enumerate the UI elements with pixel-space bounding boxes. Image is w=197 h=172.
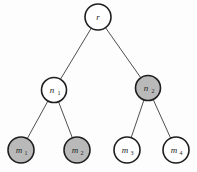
node-n1: n1 [42, 78, 67, 103]
node-label-m3: m [122, 145, 129, 155]
tree-svg: rn1n2m1m2m3m4 [0, 0, 197, 172]
node-subscript-m3: 3 [131, 150, 134, 156]
node-subscript-n1: 1 [58, 90, 61, 96]
tree-diagram: rn1n2m1m2m3m4 [0, 0, 197, 172]
node-label-r: r [96, 12, 100, 22]
edge-n1-m2 [58, 102, 72, 138]
node-label-n2: n [144, 83, 149, 93]
node-m2: m2 [64, 137, 90, 163]
nodes-layer: rn1n2m1m2m3m4 [8, 4, 189, 163]
node-subscript-m1: 1 [25, 150, 28, 156]
node-label-m1: m [16, 145, 23, 155]
node-m1: m1 [8, 137, 34, 163]
edge-r-n2 [105, 28, 140, 78]
node-subscript-n2: 2 [152, 88, 155, 94]
node-label-m4: m [171, 145, 178, 155]
node-r: r [85, 4, 111, 30]
node-n2: n2 [136, 76, 161, 101]
edge-r-n1 [60, 28, 91, 79]
node-subscript-m2: 2 [81, 150, 84, 156]
edge-n1-m1 [27, 101, 48, 139]
node-subscript-m4: 4 [180, 150, 183, 156]
node-m3: m3 [114, 137, 140, 163]
node-m4: m4 [163, 137, 189, 163]
edge-n2-m3 [131, 100, 144, 138]
node-label-m2: m [72, 145, 79, 155]
node-label-n1: n [50, 85, 55, 95]
edge-n2-m4 [153, 99, 171, 138]
